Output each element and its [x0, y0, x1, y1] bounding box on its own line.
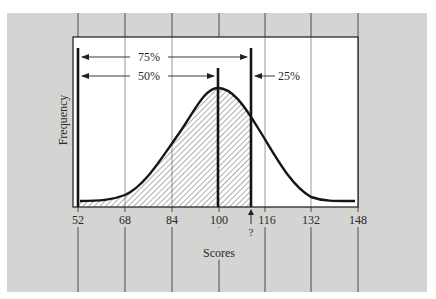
x-tick-84: 84 [166, 213, 178, 227]
label-75-percent: 75% [138, 50, 160, 64]
x-axis-label: Scores [203, 246, 235, 260]
normal-distribution-chart: 75% 50% 25% Frequency 52 68 84 100 116 1… [0, 0, 436, 299]
x-tick-52: 52 [72, 213, 84, 227]
y-axis-label: Frequency [56, 95, 70, 146]
x-tick-132: 132 [302, 213, 320, 227]
x-tick-68: 68 [119, 213, 131, 227]
label-50-percent: 50% [138, 69, 160, 83]
question-mark-label: ? [249, 226, 254, 238]
label-25-percent: 25% [278, 69, 300, 83]
x-tick-116: 116 [258, 213, 276, 227]
x-tick-148: 148 [349, 213, 367, 227]
x-tick-100: 100 [210, 213, 228, 227]
